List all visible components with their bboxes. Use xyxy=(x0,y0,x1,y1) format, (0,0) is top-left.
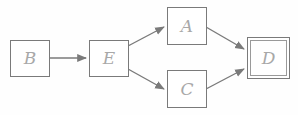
edge-e-to-c xyxy=(128,69,164,89)
node-d-inner-border: D xyxy=(250,40,287,76)
node-d-final: D xyxy=(247,37,290,79)
diagram-canvas: B E A C D xyxy=(0,0,298,115)
edge-c-to-d xyxy=(206,69,244,89)
node-b-label: B xyxy=(24,50,37,67)
node-a-label: A xyxy=(181,18,193,35)
node-d-label: D xyxy=(262,50,276,67)
node-c: C xyxy=(167,70,207,108)
edge-a-to-d xyxy=(206,27,244,49)
node-e: E xyxy=(89,40,129,77)
node-c-label: C xyxy=(180,81,193,98)
edge-e-to-a xyxy=(128,27,164,46)
node-e-label: E xyxy=(103,50,115,67)
node-b: B xyxy=(10,40,50,77)
node-a: A xyxy=(167,7,207,45)
